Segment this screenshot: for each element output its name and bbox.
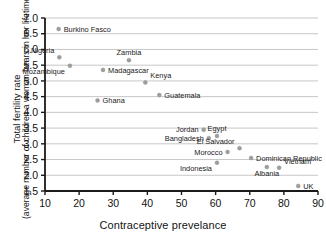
x-tick-label: 90 — [312, 197, 324, 209]
data-point-marker — [57, 55, 61, 59]
data-point-marker — [249, 156, 253, 160]
data-point-marker — [96, 98, 100, 102]
data-point-label: Madagascar — [108, 66, 149, 75]
data-point-marker — [57, 27, 61, 31]
data-point-marker — [215, 161, 219, 165]
data-point-label: Ghana — [103, 96, 126, 105]
x-tick-label: 50 — [176, 197, 188, 209]
x-tick-label: 20 — [73, 197, 85, 209]
data-point-label: Guatemala — [164, 91, 201, 100]
data-point-label: Vietnam — [284, 157, 311, 166]
x-tick-label: 10 — [39, 197, 51, 209]
data-point-marker — [68, 64, 72, 68]
data-point-marker — [202, 128, 206, 132]
data-point-label: Kenya — [150, 71, 172, 80]
x-axis-ticks: 102030405060708090 — [39, 191, 324, 209]
data-point-marker — [238, 146, 242, 150]
x-tick-label: 40 — [142, 197, 154, 209]
data-point-label: Morocco — [194, 148, 222, 157]
scatter-chart: Total fertility rate (average number of … — [0, 0, 326, 232]
data-point-marker — [101, 68, 105, 72]
data-point-marker — [143, 80, 147, 84]
data-point-label: Zambia — [117, 48, 143, 57]
y-axis-title-line2-text: (average number of children a woman bear… — [21, 19, 31, 219]
data-point-label: Albania — [254, 169, 280, 178]
data-point-label: Burkino Fasco — [64, 25, 111, 34]
plot-area: 1.52.02.53.03.54.04.55.05.56.06.57.0 102… — [0, 0, 326, 232]
data-point-marker — [226, 150, 230, 154]
y-axis-title-line2: (average number of children a woman bear… — [21, 19, 35, 219]
data-point-marker — [127, 58, 131, 62]
data-point-marker — [277, 166, 281, 170]
data-point-marker — [296, 184, 300, 188]
x-tick-label: 70 — [244, 197, 256, 209]
data-point-label: Indonesia — [180, 164, 213, 173]
x-tick-label: 60 — [210, 197, 222, 209]
data-point-marker — [157, 93, 161, 97]
data-point-label: El Salvador — [197, 137, 235, 146]
x-tick-label: 80 — [278, 197, 290, 209]
x-tick-label: 30 — [107, 197, 119, 209]
data-point-label: UK — [303, 182, 313, 191]
data-point-label: Egypt — [208, 124, 227, 133]
x-axis-title: Contraceptive prevelance — [0, 219, 326, 231]
